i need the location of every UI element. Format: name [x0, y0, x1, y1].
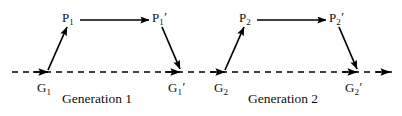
- node-sub-g2: 2: [223, 87, 228, 97]
- node-sub-g1: 1: [46, 87, 51, 97]
- node-prime-g2-prime: ′: [359, 79, 362, 94]
- node-label-g2: G2: [214, 80, 228, 97]
- caption-generation-1: Generation 1: [62, 92, 132, 106]
- node-label-g1: G1: [37, 80, 51, 97]
- node-label-p2-prime: P2′: [329, 10, 344, 27]
- node-sub-p1: 1: [69, 17, 74, 27]
- arrow-g1-to-p1: [48, 27, 67, 70]
- node-label-g1-prime: G1′: [168, 80, 185, 97]
- arrow-p2-prime-to-g2-prime: [339, 27, 357, 69]
- node-label-p1-prime: P1′: [152, 10, 167, 27]
- node-label-p1: P1: [62, 10, 74, 27]
- node-base-g1-prime: G: [168, 80, 177, 95]
- node-label-p2: P2: [239, 10, 251, 27]
- caption-generation-2: Generation 2: [248, 92, 318, 106]
- node-prime-p2-prime: ′: [341, 9, 344, 24]
- node-base-g1: G: [37, 80, 46, 95]
- node-sub-p2: 2: [246, 17, 251, 27]
- arrow-g2-to-p2: [225, 27, 244, 70]
- node-prime-p1-prime: ′: [164, 9, 167, 24]
- generation-transmission-diagram: P1 P1′ G1 G1′ P2 P2′ G2 G2′ Generation 1…: [0, 0, 402, 116]
- node-base-g2-prime: G: [345, 80, 354, 95]
- node-prime-g1-prime: ′: [182, 79, 185, 94]
- arrow-p1-prime-to-g1-prime: [162, 27, 180, 69]
- node-label-g2-prime: G2′: [345, 80, 362, 97]
- node-base-g2: G: [214, 80, 223, 95]
